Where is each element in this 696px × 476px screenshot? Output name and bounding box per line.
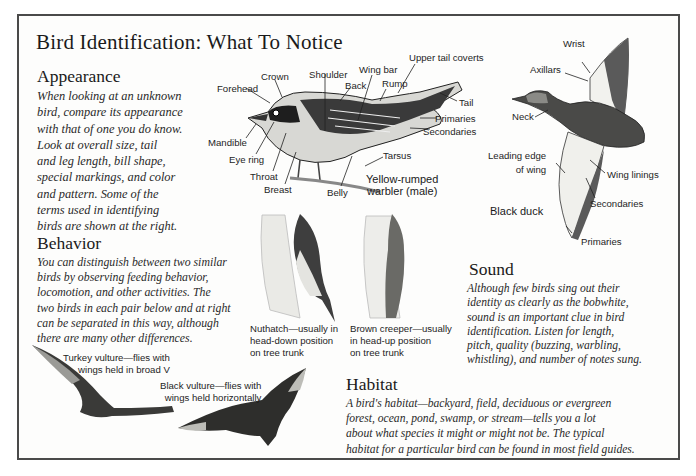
black-vulture-caption: Black vulture—flies with wings held hori…: [160, 380, 261, 404]
duck-label-axillars: Axillars: [530, 64, 561, 75]
warbler-label-tail: Tail: [459, 97, 473, 108]
creeper-caption-line: in head-up position: [350, 335, 452, 347]
appearance-line: and pattern. Some of the: [37, 186, 207, 202]
warbler-caption-line: Yellow-rumped: [366, 173, 438, 185]
warbler-label-back: Back: [345, 80, 366, 91]
nuthatch-caption-line: Nuthatch—usually in: [250, 323, 338, 335]
behavior-line: can be separated in this way, although: [37, 316, 252, 331]
warbler-label-mandible: Mandible: [208, 137, 247, 148]
duck-label-neck: Neck: [512, 111, 534, 122]
black-vulture-caption-line: Black vulture—flies with: [160, 380, 261, 392]
warbler-label-shoulder: Shoulder: [309, 69, 347, 80]
appearance-line: terms used in identifying: [37, 202, 207, 218]
turkey-vulture-caption-line: Turkey vulture—flies with: [63, 352, 170, 364]
behavior-line: two birds in each pair below and at righ…: [37, 301, 252, 316]
creeper-caption-line: Brown creeper—usually: [350, 323, 452, 335]
appearance-line: Look at overall size, tail: [37, 137, 207, 153]
sound-body: Although few birds sing out their identi…: [467, 282, 679, 368]
creeper-caption: Brown creeper—usually in head-up positio…: [350, 323, 452, 359]
behavior-line: there are many other differences.: [37, 331, 252, 346]
warbler-label-breast: Breast: [264, 184, 292, 195]
duck-label-leading-edge: Leading edge of wing: [488, 150, 546, 175]
appearance-line: and leg length, bill shape,: [37, 153, 207, 169]
black-vulture-caption-line: wings held horizontally: [160, 392, 261, 404]
behavior-body: You can distinguish between two similar …: [37, 255, 252, 346]
warbler-label-belly: Belly: [327, 187, 348, 198]
warbler-label-throat: Throat: [250, 171, 278, 182]
appearance-heading: Appearance: [37, 66, 121, 87]
sound-heading: Sound: [469, 259, 514, 280]
duck-label-wrist: Wrist: [563, 38, 585, 49]
sound-line: Although few birds sing out their: [467, 282, 679, 296]
habitat-line: forest, ocean, pond, swamp, or stream—te…: [346, 411, 676, 426]
behavior-line: locomotion, and other activities. The: [37, 285, 252, 300]
habitat-heading: Habitat: [346, 374, 398, 395]
warbler-caption-line: warbler (male): [366, 185, 438, 197]
warbler-label-tarsus: Tarsus: [383, 150, 411, 161]
appearance-line: with that of one you do know.: [37, 121, 207, 137]
appearance-body: When looking at an unknown bird, compare…: [37, 88, 207, 235]
appearance-line: When looking at an unknown: [37, 88, 207, 104]
duck-label-secondaries: Secondaries: [590, 198, 643, 209]
creeper-caption-line: on tree trunk: [350, 347, 452, 359]
sound-line: identification. Listen for length,: [467, 325, 679, 339]
habitat-line: A bird's habitat—backyard, field, decidu…: [346, 396, 676, 411]
turkey-vulture-caption-line: wings held in broad V: [63, 364, 170, 376]
appearance-line: bird, compare its appearance: [37, 104, 207, 120]
sound-line: pitch, quality (buzzing, warbling,: [467, 339, 679, 353]
sound-line: whistling), and number of notes sung.: [467, 353, 679, 367]
habitat-body: A bird's habitat—backyard, field, decidu…: [346, 396, 676, 457]
warbler-label-eye-ring: Eye ring: [229, 154, 264, 165]
sound-line: sound is an important clue in bird: [467, 311, 679, 325]
turkey-vulture-caption: Turkey vulture—flies with wings held in …: [63, 352, 170, 376]
warbler-label-secondaries: Secondaries: [423, 126, 476, 137]
duck-caption: Black duck: [490, 205, 543, 217]
nuthatch-caption-line: head-down position: [250, 335, 338, 347]
sound-line: identity as clearly as the bobwhite,: [467, 296, 679, 310]
behavior-line: You can distinguish between two similar: [37, 255, 252, 270]
warbler-label-wing-bar: Wing bar: [359, 64, 397, 75]
nuthatch-caption-line: on tree trunk: [250, 347, 338, 359]
warbler-label-rump: Rump: [382, 78, 408, 89]
warbler-label-forehead: Forehead: [217, 83, 258, 94]
behavior-line: birds by observing feeding behavior,: [37, 270, 252, 285]
duck-label-wing-linings: Wing linings: [607, 169, 659, 180]
page-title: Bird Identification: What To Notice: [36, 30, 343, 55]
appearance-line: special markings, and color: [37, 169, 207, 185]
duck-label-line: of wing: [488, 164, 546, 175]
duck-label-primaries: Primaries: [581, 236, 622, 247]
nuthatch-caption: Nuthatch—usually in head-down position o…: [250, 323, 338, 359]
warbler-label-crown: Crown: [261, 71, 289, 82]
habitat-line: habitat for a particular bird can be fou…: [346, 442, 676, 457]
warbler-label-upper-tail-coverts: Upper tail coverts: [409, 52, 484, 63]
habitat-line: about what species it might or might not…: [346, 426, 676, 441]
warbler-caption: Yellow-rumped warbler (male): [366, 173, 438, 197]
duck-label-line: Leading edge: [488, 150, 546, 161]
behavior-heading: Behavior: [37, 233, 101, 254]
warbler-label-primaries: Primaries: [435, 113, 476, 124]
